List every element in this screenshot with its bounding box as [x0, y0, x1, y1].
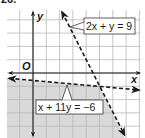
label-2x-plus-y-eq-9: 2x + y = 9 [70, 18, 135, 34]
equation-label-1: 2x + y = 9 [86, 20, 132, 32]
y-axis-label: y [36, 10, 44, 22]
problem-number: 26. [1, 0, 16, 5]
x-axis-label: x [130, 73, 138, 85]
origin-label: O [22, 60, 31, 72]
inequality-graph: 26. y x O 2x + y = 9 x + 11y = −6 [0, 0, 145, 138]
equation-label-2: x + 11y = −6 [38, 101, 95, 113]
